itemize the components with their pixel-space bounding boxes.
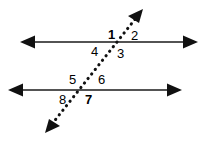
angle-label-6: 6: [98, 73, 105, 86]
lower-parallel-line-group: [8, 84, 182, 97]
angle-label-1: 1: [108, 28, 115, 41]
angle-label-3: 3: [117, 47, 124, 60]
angle-label-5: 5: [69, 73, 76, 86]
geometry-canvas: [0, 0, 212, 144]
transversal-line: [52, 18, 136, 124]
transversal-top-arrowhead: [128, 9, 143, 23]
transversal-bottom-arrowhead: [45, 119, 60, 133]
geometry-figure: 1 2 3 4 5 6 7 8: [0, 0, 212, 144]
lower-line-right-arrowhead: [167, 84, 182, 97]
angle-label-7: 7: [85, 93, 92, 106]
angle-label-8: 8: [59, 93, 66, 106]
angle-label-2: 2: [131, 29, 138, 42]
transversal-line-group: [45, 9, 143, 133]
upper-line-right-arrowhead: [183, 36, 198, 49]
upper-line-left-arrowhead: [20, 36, 35, 49]
lower-line-left-arrowhead: [8, 84, 23, 97]
angle-label-4: 4: [91, 45, 98, 58]
